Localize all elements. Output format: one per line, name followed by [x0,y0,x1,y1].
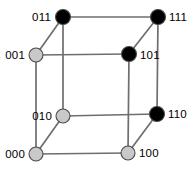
cube-vertex-label-001: 001 [5,49,25,61]
cube-vertex-label-111: 111 [169,11,187,23]
cube-vertex-100[interactable] [121,146,135,160]
cube-vertex-111[interactable] [151,10,166,25]
cube-vertex-101[interactable] [122,47,137,62]
cube-edge-000-100 [36,153,128,154]
cube-edge-001-101 [36,54,129,55]
cube-edges-group [36,17,158,154]
cube-vertex-label-011: 011 [32,11,51,23]
cube-vertex-label-110: 110 [168,108,187,120]
cube-vertex-010[interactable] [56,109,70,123]
cube-diagram: 011111001101010110000100 [0,0,195,171]
cube-labels-group: 011111001101010110000100 [5,11,187,160]
cube-vertex-label-010: 010 [32,110,52,122]
cube-edge-010-110 [63,114,157,116]
cube-vertex-000[interactable] [29,147,43,161]
cube-vertex-011[interactable] [56,10,71,25]
cube-vertex-110[interactable] [150,107,165,122]
cube-vertex-label-000: 000 [5,148,25,160]
cube-svg-canvas: 011111001101010110000100 [0,0,195,171]
cube-vertex-001[interactable] [29,48,43,62]
cube-vertex-label-100: 100 [139,147,159,159]
cube-edge-101-100 [128,54,129,153]
cube-vertex-label-101: 101 [140,49,160,61]
cube-edge-111-110 [157,17,158,114]
